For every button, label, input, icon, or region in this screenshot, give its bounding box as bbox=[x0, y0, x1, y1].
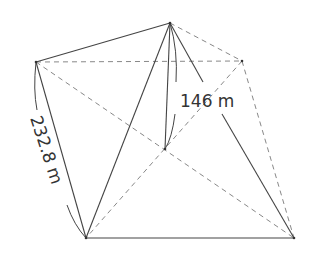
pyramid-diagram: 146 m 232.8 m bbox=[0, 0, 313, 266]
height-label: 146 m bbox=[180, 91, 234, 111]
edge-arc-upper bbox=[35, 62, 37, 110]
edge-apex-bottom-right-lower bbox=[222, 114, 294, 238]
visible-edges bbox=[36, 23, 294, 238]
height-line bbox=[165, 23, 170, 149]
edge-arc-lower bbox=[67, 205, 86, 238]
vertex-dots bbox=[35, 22, 296, 240]
edge-right-base bbox=[242, 61, 294, 238]
edge-back-base bbox=[36, 61, 242, 62]
edge-apex-bottom-left bbox=[86, 23, 170, 238]
hidden-edges bbox=[36, 23, 294, 238]
edge-apex-left bbox=[36, 23, 170, 62]
